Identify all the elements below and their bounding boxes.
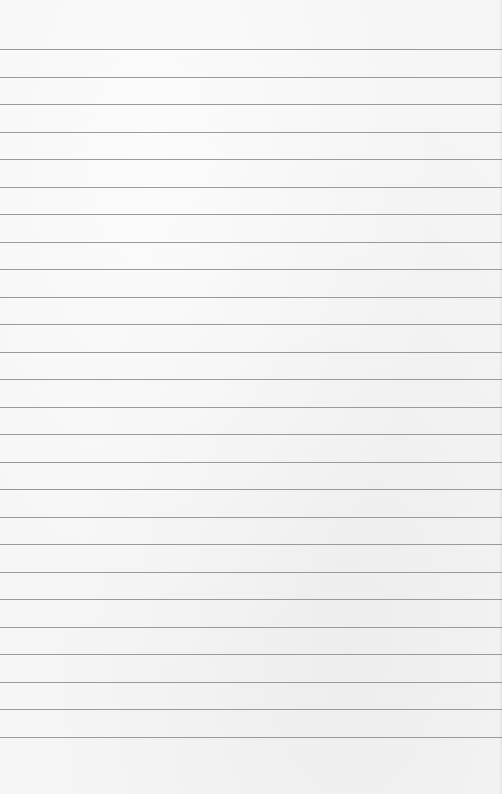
- ruled-line: [0, 462, 502, 463]
- ruled-line: [0, 599, 502, 600]
- ruled-line: [0, 379, 502, 380]
- ruled-line: [0, 654, 502, 655]
- ruled-line: [0, 269, 502, 270]
- ruled-line: [0, 407, 502, 408]
- ruled-line: [0, 517, 502, 518]
- ruled-line: [0, 49, 502, 50]
- ruled-line: [0, 737, 502, 738]
- ruled-line: [0, 544, 502, 545]
- ruled-line: [0, 627, 502, 628]
- ruled-line: [0, 572, 502, 573]
- ruled-line: [0, 242, 502, 243]
- ruled-line: [0, 297, 502, 298]
- ruled-line: [0, 159, 502, 160]
- ruled-line: [0, 709, 502, 710]
- ruled-line: [0, 324, 502, 325]
- ruled-line: [0, 214, 502, 215]
- ruled-line: [0, 187, 502, 188]
- ruled-line: [0, 682, 502, 683]
- ruled-line: [0, 352, 502, 353]
- ruled-line: [0, 489, 502, 490]
- ruled-line: [0, 434, 502, 435]
- ruled-line: [0, 104, 502, 105]
- ruled-line: [0, 77, 502, 78]
- ruled-line: [0, 132, 502, 133]
- lined-paper-sheet: [0, 0, 502, 794]
